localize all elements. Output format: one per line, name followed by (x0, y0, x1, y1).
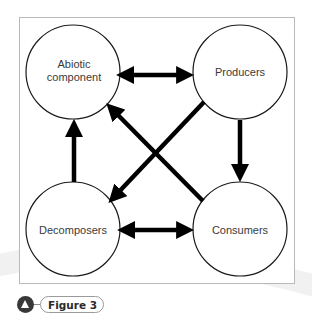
label-decomposers: Decomposers (26, 224, 120, 237)
figure-page: Abiotic component Producers Decomposers … (0, 0, 312, 327)
ecosystem-diagram (0, 0, 312, 327)
figure-caption: Figure 3 (17, 295, 104, 314)
label-producers: Producers (193, 66, 287, 79)
label-abiotic-component: Abiotic component (27, 58, 121, 84)
triangle-in-circle-icon (17, 296, 34, 313)
label-consumers: Consumers (193, 224, 287, 237)
figure-label: Figure 3 (40, 296, 104, 313)
arrow-producers-decomposers (114, 102, 204, 197)
